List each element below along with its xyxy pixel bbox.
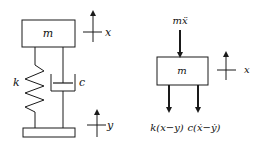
- x-label: x: [105, 26, 112, 39]
- physical-model: m k c x y: [13, 13, 114, 137]
- spring-label: k: [13, 76, 20, 89]
- x-displacement-arrow: [83, 13, 102, 42]
- spring-force-label: k(x−y): [150, 122, 184, 133]
- spring: [25, 47, 44, 128]
- y-label: y: [106, 119, 114, 132]
- fbd-x-label: x: [244, 64, 250, 75]
- damper: [51, 47, 75, 128]
- inertia-force-label: mẍ: [172, 15, 187, 26]
- free-body-diagram: mẍ m x k(x−y) c(ẋ−ẏ): [150, 15, 250, 133]
- base-plate: [23, 128, 75, 137]
- diagram-canvas: m k c x y mẍ m: [0, 0, 262, 148]
- y-displacement-arrow: [87, 112, 106, 137]
- fbd-x-arrow: [217, 54, 236, 80]
- fbd-mass-label: m: [177, 65, 186, 76]
- damper-force-label: c(ẋ−ẏ): [187, 122, 220, 133]
- damper-label: c: [79, 76, 85, 89]
- mass-label: m: [43, 27, 53, 40]
